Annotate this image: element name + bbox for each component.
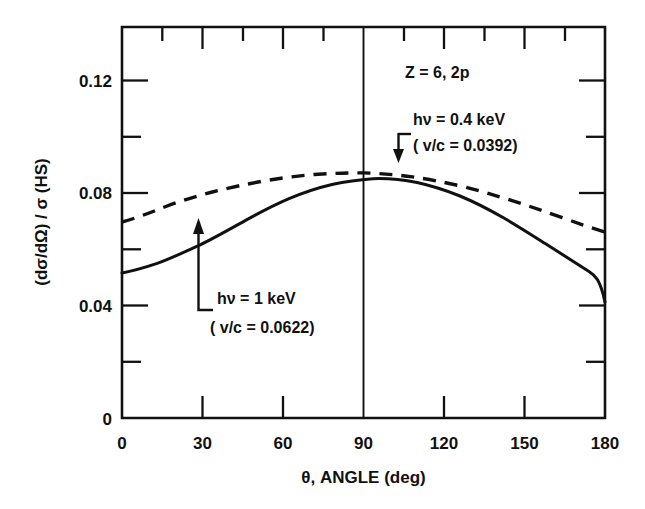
annotation-system-label: Z = 6, 2p: [405, 64, 470, 81]
x-tick-labels: 0 30 60 90 120 150 180: [117, 434, 619, 453]
figure-page: 0.12 0.08 0.04 0 0 30 60 90 120 150 180 …: [0, 0, 645, 509]
annotation-hv-0p4kev-line2: ( v/c = 0.0392): [413, 137, 518, 154]
arrow-down-icon: [393, 149, 404, 163]
x-tick-label-0: 0: [117, 434, 126, 453]
angular-distribution-chart: 0.12 0.08 0.04 0 0 30 60 90 120 150 180 …: [0, 0, 645, 509]
y-axis-title: (dσ/dΩ) / σ (HS): [32, 158, 51, 286]
x-tick-label-90: 90: [354, 434, 373, 453]
annotation-hv-1kev-line1: hν = 1 keV: [217, 290, 296, 307]
x-tick-label-60: 60: [274, 434, 293, 453]
x-axis-title: θ, ANGLE (deg): [301, 468, 425, 487]
x-tick-label-30: 30: [193, 434, 212, 453]
x-tick-label-180: 180: [591, 434, 619, 453]
annotation-upper-curve: hν = 0.4 keV ( v/c = 0.0392): [393, 111, 518, 163]
annotation-lower-curve: hν = 1 keV ( v/c = 0.0622): [193, 218, 315, 336]
arrow-up-icon: [193, 218, 204, 234]
x-tick-label-150: 150: [510, 434, 538, 453]
y-tick-labels: 0.12 0.08 0.04 0: [79, 72, 113, 429]
annotation-hv-1kev-line2: ( v/c = 0.0622): [210, 319, 315, 336]
x-tick-label-120: 120: [430, 434, 458, 453]
y-tick-label-004: 0.04: [79, 297, 113, 316]
annotation-hv-0p4kev-line1: hν = 0.4 keV: [413, 111, 505, 128]
y-tick-label-008: 0.08: [79, 184, 112, 203]
y-tick-label-012: 0.12: [79, 72, 112, 91]
y-tick-label-0: 0: [103, 410, 112, 429]
